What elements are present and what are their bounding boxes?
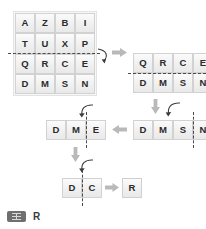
grid-cell: D bbox=[133, 73, 153, 93]
grid-cell: A bbox=[15, 13, 35, 33]
grid-cell: M bbox=[35, 74, 55, 94]
step4-grid: D M E bbox=[46, 120, 106, 140]
fold-curve-arrow-icon bbox=[76, 103, 94, 119]
step3-fold-line bbox=[193, 112, 194, 148]
grid-cell: Q bbox=[15, 54, 35, 74]
grid-cell: D bbox=[62, 178, 82, 198]
answer-label: R bbox=[33, 212, 40, 222]
grid-cell: I bbox=[75, 13, 95, 33]
grid-cell: E bbox=[86, 120, 106, 140]
answer-row: R bbox=[7, 211, 40, 222]
grid-cell: S bbox=[55, 74, 75, 94]
grid-cell: S bbox=[173, 120, 193, 140]
grid-badge-icon bbox=[7, 211, 26, 222]
fold-curve-arrow-icon bbox=[96, 47, 112, 65]
grid-cell: D bbox=[15, 74, 35, 94]
grid-cell: R bbox=[153, 53, 173, 73]
grid-cell: R bbox=[122, 178, 142, 198]
grid-cell: Q bbox=[133, 53, 153, 73]
grid-cell: D bbox=[46, 120, 66, 140]
step3-grid: D M S N bbox=[133, 120, 206, 140]
grid-cell: T bbox=[15, 33, 35, 53]
puzzle-canvas: A Z B I T U X P Q R C E D M S N Q R C E … bbox=[0, 0, 206, 229]
grid-cell: M bbox=[153, 120, 173, 140]
arrow-icon bbox=[105, 183, 119, 192]
grid-cell: E bbox=[193, 53, 206, 73]
grid-cell: E bbox=[75, 54, 95, 74]
grid-cell: B bbox=[55, 13, 75, 33]
arrow-icon bbox=[112, 125, 127, 134]
fold-curve-arrow-icon bbox=[163, 101, 181, 118]
step1-fold-line bbox=[8, 53, 100, 54]
grid-cell: P bbox=[75, 33, 95, 53]
arrow-icon bbox=[112, 48, 127, 57]
step6-result-grid: R bbox=[122, 178, 142, 198]
step2-fold-line bbox=[128, 73, 206, 74]
grid-cell: U bbox=[35, 33, 55, 53]
grid-cell: N bbox=[193, 120, 206, 140]
grid-cell: X bbox=[55, 33, 75, 53]
grid-cell: N bbox=[193, 73, 206, 93]
grid-cell: Z bbox=[35, 13, 55, 33]
grid-cell: N bbox=[75, 74, 95, 94]
grid-cell: D bbox=[133, 120, 153, 140]
grid-cell: C bbox=[82, 178, 102, 198]
grid-cell: S bbox=[173, 73, 193, 93]
fold-curve-arrow-icon bbox=[76, 158, 94, 174]
arrow-icon bbox=[151, 99, 160, 114]
grid-cell: C bbox=[173, 53, 193, 73]
grid-cell: M bbox=[153, 73, 173, 93]
grid-cell: C bbox=[55, 54, 75, 74]
badge-glyph bbox=[12, 213, 21, 220]
grid-cell: R bbox=[35, 54, 55, 74]
grid-cell: M bbox=[66, 120, 86, 140]
step5-fold-line bbox=[82, 170, 83, 206]
